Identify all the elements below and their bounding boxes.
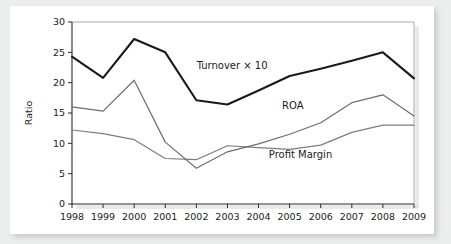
plot-shadow-bottom xyxy=(76,205,418,209)
x-tick-label-2008: 2008 xyxy=(371,211,395,222)
x-tick-label-2007: 2007 xyxy=(340,211,364,222)
plot-frame-top-right xyxy=(72,22,414,204)
x-tick-label-2006: 2006 xyxy=(309,211,333,222)
y-tick-label-10: 10 xyxy=(53,138,65,149)
series-label-profit-margin: Profit Margin xyxy=(269,149,332,160)
x-tick-label-2000: 2000 xyxy=(122,211,146,222)
y-tick-label-15: 15 xyxy=(53,107,65,118)
y-tick-label-20: 20 xyxy=(53,77,65,88)
plot-shadow-right xyxy=(415,26,419,208)
series-line-roa xyxy=(72,80,414,168)
series-label-turnover-10: Turnover × 10 xyxy=(196,60,268,71)
x-tick-label-1998: 1998 xyxy=(60,211,84,222)
x-tick-label-1999: 1999 xyxy=(91,211,115,222)
series-line-profit-margin xyxy=(72,125,414,160)
x-tick-label-2001: 2001 xyxy=(153,211,177,222)
line-chart: 0510152025301998199920002001200220032004… xyxy=(10,6,434,234)
y-axis-title: Ratio xyxy=(23,101,34,126)
chart-canvas: 0510152025301998199920002001200220032004… xyxy=(10,6,434,234)
series-label-roa: ROA xyxy=(282,100,304,111)
y-tick-label-30: 30 xyxy=(53,16,65,27)
x-tick-label-2002: 2002 xyxy=(184,211,208,222)
y-tick-label-5: 5 xyxy=(59,168,65,179)
y-tick-label-0: 0 xyxy=(59,198,65,209)
series-line-turnover-10 xyxy=(72,39,414,105)
plot-axes xyxy=(72,22,414,204)
x-tick-label-2004: 2004 xyxy=(246,211,270,222)
y-tick-label-25: 25 xyxy=(53,47,65,58)
x-tick-label-2003: 2003 xyxy=(215,211,239,222)
x-tick-label-2005: 2005 xyxy=(278,211,302,222)
x-tick-label-2009: 2009 xyxy=(402,211,426,222)
figure-card: 0510152025301998199920002001200220032004… xyxy=(10,6,434,234)
screenshot-root: 0510152025301998199920002001200220032004… xyxy=(0,0,451,244)
